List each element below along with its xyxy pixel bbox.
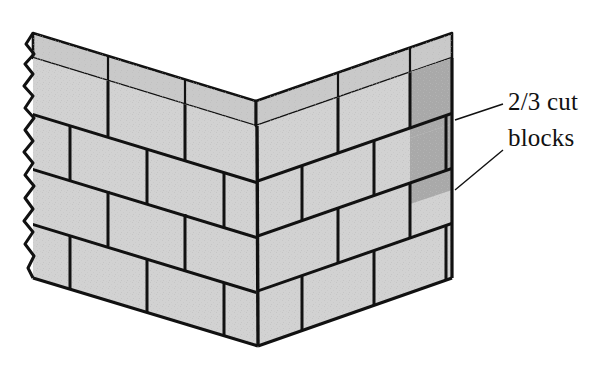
callout-line-2: blocks bbox=[508, 124, 574, 151]
masonry-corner-diagram: 2/3 cut blocks bbox=[0, 0, 608, 376]
corner-arris bbox=[256, 101, 258, 346]
corner-vertical-arris bbox=[257, 126, 258, 346]
callout-line-1: 2/3 cut bbox=[508, 88, 578, 115]
figure-root: 2/3 cut blocks bbox=[0, 0, 608, 376]
